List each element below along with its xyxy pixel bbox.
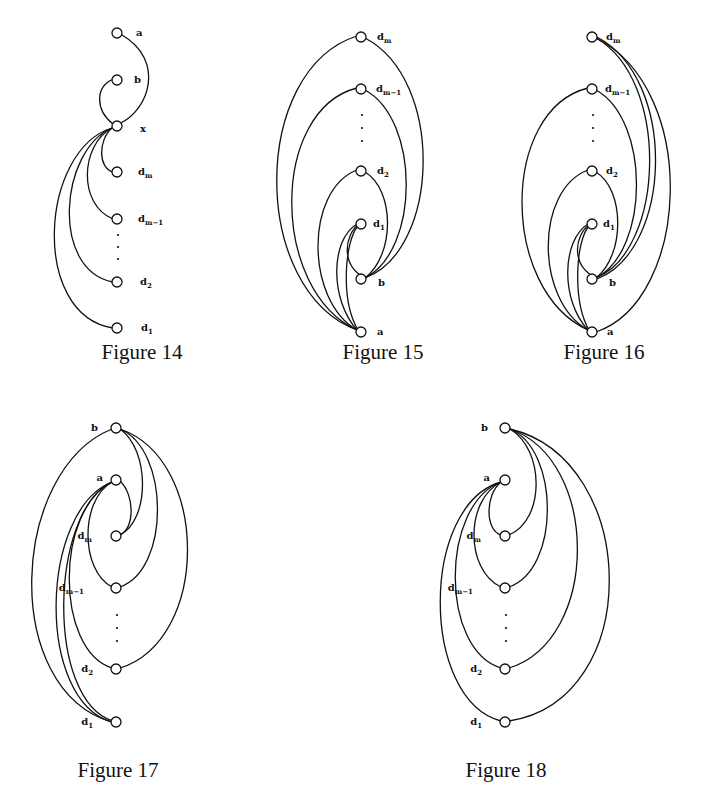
node-dm <box>500 531 510 541</box>
node-label-dm: dm <box>78 530 93 544</box>
node-label-d1: d1 <box>603 218 615 232</box>
node-d2 <box>587 166 597 176</box>
node-label-a: a <box>97 472 104 483</box>
ellipsis-dot <box>117 246 119 248</box>
figures-canvas: abxdmdm−1d2d1dmdm−1d2d1badmdm−1d2d1babad… <box>0 0 704 791</box>
node-a <box>356 327 366 337</box>
edge-b-dm1 <box>596 90 637 278</box>
node-subscript: m <box>613 36 621 45</box>
node-dm1 <box>111 583 121 593</box>
edge-x-b <box>100 79 114 124</box>
node-b <box>356 274 366 284</box>
edge-b-dm1 <box>509 429 547 587</box>
node-a <box>112 28 122 38</box>
ellipsis-dot <box>505 640 507 642</box>
node-subscript: 2 <box>88 668 93 677</box>
figure-17: badmdm−1d2d1 <box>32 422 188 730</box>
ellipsis-dot <box>361 127 363 129</box>
node-d1 <box>111 717 121 727</box>
node-label-a: a <box>377 326 384 337</box>
node-label-b: b <box>134 74 141 85</box>
node-label-d1: d1 <box>81 716 93 730</box>
node-a <box>111 475 121 485</box>
ellipsis-dot <box>505 614 507 616</box>
node-dm <box>112 167 122 177</box>
node-label-dm: dm <box>606 31 621 45</box>
node-label-dm1: dm−1 <box>138 213 163 227</box>
ellipsis-dot <box>116 614 118 616</box>
node-x <box>112 121 122 131</box>
node-subscript: 2 <box>384 170 389 179</box>
ellipsis-dot <box>361 140 363 142</box>
node-label-d1: d1 <box>373 218 385 232</box>
node-subscript: m−1 <box>612 88 630 97</box>
node-label-d1: d1 <box>470 716 482 730</box>
edge-a-d2 <box>318 170 357 330</box>
node-d2 <box>356 166 366 176</box>
node-d1 <box>500 717 510 727</box>
edge-a-dm <box>277 36 357 330</box>
node-b <box>111 423 121 433</box>
node-d2 <box>500 664 510 674</box>
node-label-dm: dm <box>377 31 392 45</box>
node-label-b: b <box>91 422 98 433</box>
node-dm1 <box>112 214 122 224</box>
node-dm1 <box>587 84 597 94</box>
edge-x-d1 <box>54 128 113 328</box>
edge-a-d2 <box>69 482 112 668</box>
edge-a-d1 <box>440 482 501 721</box>
caption-figure-17: Figure 17 <box>77 758 158 783</box>
node-d1 <box>587 219 597 229</box>
node-a <box>500 475 510 485</box>
caption-figure-16: Figure 16 <box>563 340 644 365</box>
ellipsis-dot <box>117 234 119 236</box>
node-dm <box>356 32 366 42</box>
node-subscript: m−1 <box>383 88 401 97</box>
ellipsis-dot <box>361 114 363 116</box>
node-label-dm1: dm−1 <box>448 582 473 596</box>
node-dm <box>587 32 597 42</box>
node-d2 <box>112 277 122 287</box>
node-subscript: m−1 <box>455 587 473 596</box>
node-subscript: 2 <box>477 668 482 677</box>
edge-b-dm <box>596 38 650 278</box>
node-label-dm1: dm−1 <box>59 582 84 596</box>
node-subscript: 1 <box>380 223 385 232</box>
ellipsis-dot <box>505 627 507 629</box>
node-label-d2: d2 <box>470 663 482 677</box>
node-label-a: a <box>484 472 491 483</box>
node-label-b: b <box>609 277 616 288</box>
node-dm1 <box>500 583 510 593</box>
edge-x-dm1 <box>87 128 113 219</box>
ellipsis-dot <box>592 127 594 129</box>
node-label-b: b <box>481 422 488 433</box>
node-subscript: m <box>85 535 93 544</box>
node-d2 <box>111 664 121 674</box>
figure-15: dmdm−1d2d1ba <box>277 31 423 337</box>
node-b <box>500 423 510 433</box>
node-subscript: 1 <box>610 223 615 232</box>
node-label-b: b <box>378 277 385 288</box>
edge-b-d2 <box>120 429 188 668</box>
node-label-dm1: dm−1 <box>605 83 630 97</box>
node-subscript: 2 <box>613 170 618 179</box>
node-subscript: m−1 <box>145 218 163 227</box>
node-subscript: m−1 <box>66 587 84 596</box>
node-label-d2: d2 <box>81 663 93 677</box>
node-subscript: 1 <box>88 721 93 730</box>
ellipsis-dot <box>116 627 118 629</box>
node-label-a: a <box>136 27 143 38</box>
node-label-dm: dm <box>138 166 153 180</box>
edge-b-dm1 <box>365 90 406 278</box>
edge-b-d1 <box>347 225 365 278</box>
node-dm <box>111 531 121 541</box>
node-a <box>587 327 597 337</box>
edge-b-d2 <box>509 429 577 668</box>
ellipsis-dot <box>592 140 594 142</box>
edge-b-d1 <box>577 225 596 278</box>
node-subscript: m <box>474 535 482 544</box>
edge-x-d2 <box>69 128 113 282</box>
figure-14: abxdmdm−1d2d1 <box>54 27 163 336</box>
node-label-x: x <box>140 123 147 134</box>
node-label-a: a <box>607 326 614 337</box>
